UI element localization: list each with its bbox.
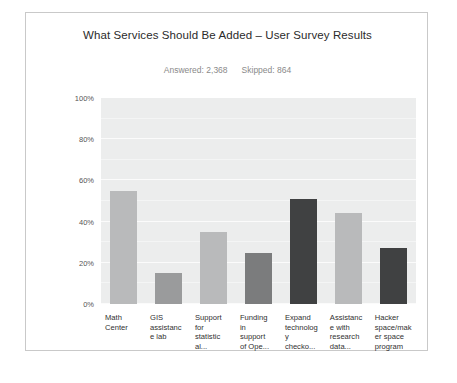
skipped-count: Skipped: 864 — [242, 65, 292, 75]
plot-area — [101, 98, 416, 304]
y-axis-tick: 20% — [79, 258, 94, 267]
bar[interactable] — [380, 248, 408, 304]
bar[interactable] — [200, 232, 228, 304]
bar[interactable] — [155, 273, 183, 304]
scan-artifact-top — [0, 0, 457, 6]
bar-slot — [326, 98, 371, 304]
bar[interactable] — [245, 253, 273, 305]
x-axis-label: Fundinginsupportof Ope... — [236, 313, 281, 371]
bar-slot — [371, 98, 416, 304]
chart-subtitle: Answered: 2,368Skipped: 864 — [26, 65, 429, 75]
x-axis-label: Hackerspace/maker spaceprogram — [371, 313, 416, 371]
x-axis-labels: MathCenterGISassistance labSupportforsta… — [101, 313, 416, 371]
x-axis-label: Assistance withresearchdata... — [326, 313, 371, 371]
answered-count: Answered: 2,368 — [164, 65, 228, 75]
x-axis-label: GISassistance lab — [146, 313, 191, 371]
y-axis-tick: 0% — [83, 300, 94, 309]
bar-slot — [281, 98, 326, 304]
bar-slot — [191, 98, 236, 304]
x-axis-label: MathCenter — [101, 313, 146, 371]
chart-card: What Services Should Be Added – User Sur… — [25, 12, 428, 351]
y-axis-tick: 40% — [79, 217, 94, 226]
y-axis: 0%20%40%60%80%100% — [71, 93, 97, 308]
x-axis-label: Supportforstatistical... — [191, 313, 236, 371]
chart-title: What Services Should Be Added – User Sur… — [26, 29, 429, 41]
bar-series — [101, 98, 416, 304]
bar[interactable] — [335, 213, 363, 304]
y-axis-tick: 100% — [75, 94, 94, 103]
plot-wrapper: 0%20%40%60%80%100% — [71, 93, 416, 308]
bar-slot — [101, 98, 146, 304]
bar[interactable] — [110, 191, 138, 304]
y-axis-tick: 80% — [79, 135, 94, 144]
bar-slot — [236, 98, 281, 304]
bar[interactable] — [290, 199, 318, 304]
x-axis-label: Expandtechnologychecko... — [281, 313, 326, 371]
y-axis-tick: 60% — [79, 176, 94, 185]
bar-slot — [146, 98, 191, 304]
